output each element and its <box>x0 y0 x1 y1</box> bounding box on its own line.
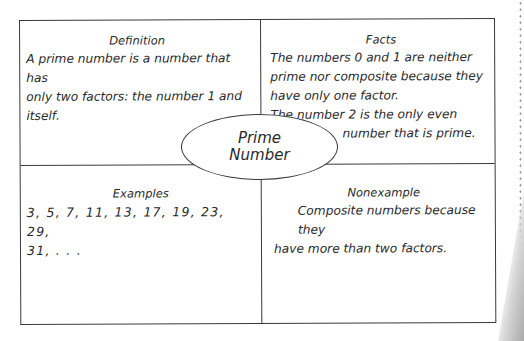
definition-heading: Definition <box>26 31 248 50</box>
facts-line: have only one factor. <box>270 86 492 106</box>
nonexample-quadrant: Nonexample Composite numbers because the… <box>274 183 494 259</box>
definition-line: only two factors: the number 1 and <box>26 87 248 107</box>
examples-line: 3, 5, 7, 11, 13, 17, 19, 23, 29, <box>27 202 249 241</box>
center-label-line1: Prime <box>238 130 281 147</box>
examples-heading: Examples <box>27 184 249 203</box>
facts-line: The numbers 0 and 1 are neither <box>270 48 492 68</box>
nonexample-line: Composite numbers because they <box>274 201 494 240</box>
examples-line: 31, . . . <box>27 240 249 260</box>
nonexample-line: have more than two factors. <box>274 239 494 259</box>
definition-quadrant: Definition A prime number is a number th… <box>26 31 248 126</box>
examples-quadrant: Examples 3, 5, 7, 11, 13, 17, 19, 23, 29… <box>27 184 249 260</box>
facts-heading: Facts <box>270 30 492 49</box>
nonexample-heading: Nonexample <box>274 183 494 202</box>
center-label-line2: Number <box>229 147 289 164</box>
facts-line: prime nor composite because they <box>270 67 492 87</box>
definition-line: A prime number is a number that has <box>26 49 248 88</box>
center-oval: Prime Number <box>181 114 338 180</box>
